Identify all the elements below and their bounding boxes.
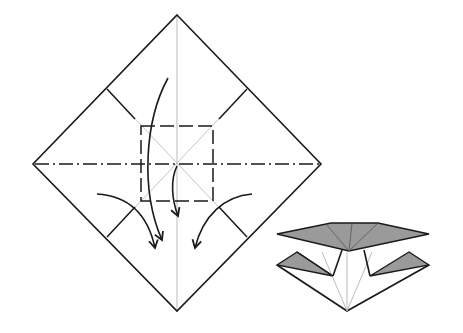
lower-right-flap	[370, 252, 429, 276]
result-figure	[277, 223, 429, 311]
arrow-left-curve-icon	[97, 194, 155, 248]
left-wall	[333, 250, 342, 276]
right-wall	[364, 250, 370, 276]
lower-left-flap	[277, 252, 333, 276]
origami-diagram	[0, 0, 463, 333]
bottom-edge	[277, 265, 429, 311]
arrow-right-curve-icon	[195, 194, 252, 248]
arrow-top-down-icon	[148, 78, 168, 240]
